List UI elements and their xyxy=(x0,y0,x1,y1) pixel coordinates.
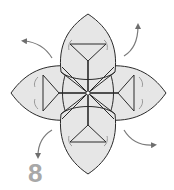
arrow-top-left-icon xyxy=(24,41,52,58)
arrow-bottom-right-icon xyxy=(124,130,154,145)
arrow-top-right-icon xyxy=(124,26,138,56)
origami-diagram: 8 xyxy=(0,0,174,190)
arrow-bottom-left-icon xyxy=(38,130,52,156)
step-number: 8 xyxy=(28,160,42,186)
